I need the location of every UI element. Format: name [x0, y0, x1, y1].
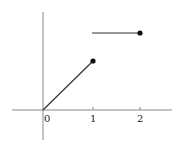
piecewise-chart: 0 1 2 — [0, 0, 181, 148]
segment-2-endpoint — [137, 30, 142, 35]
segment-1-line — [43, 61, 93, 110]
x-tick-label-1: 1 — [90, 113, 96, 124]
x-tick-label-0: 0 — [44, 113, 50, 124]
segment-1-endpoint — [90, 58, 95, 63]
x-tick-label-2: 2 — [137, 113, 143, 124]
